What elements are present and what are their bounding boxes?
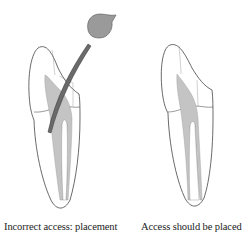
left-root-septum <box>62 120 68 200</box>
caption-incorrect-access: Incorrect access: placement <box>4 221 117 232</box>
diagram-canvas <box>0 0 250 237</box>
caption-correct-access: Access should be placed <box>141 221 242 232</box>
left-tooth <box>29 14 116 208</box>
tooth-access-diagram: Incorrect access: placement Access shoul… <box>0 0 250 237</box>
right-tooth <box>161 45 213 207</box>
file-instrument-head <box>88 14 116 38</box>
